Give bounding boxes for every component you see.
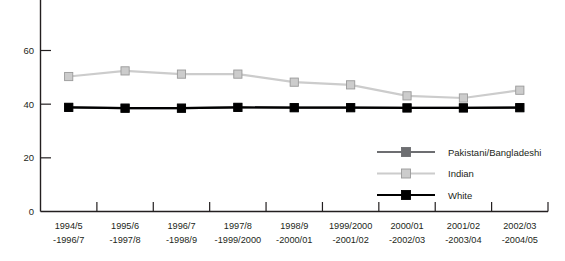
legend-item-2: White — [377, 190, 472, 201]
legend-label: Indian — [448, 168, 474, 179]
x-tick-label-4-line1: -2000/01 — [276, 235, 312, 245]
legend-marker — [402, 148, 411, 157]
y-tick-marks — [41, 51, 52, 158]
x-tick-label-1-line0: 1995/6 — [111, 221, 139, 231]
x-tick-label-5-line0: 1999/2000 — [329, 221, 372, 231]
x-tick-label-6-line0: 2000/01 — [390, 221, 423, 231]
x-tick-label-3-line0: 1997/8 — [224, 221, 252, 231]
data-point — [234, 103, 242, 111]
data-point — [403, 92, 411, 100]
legend-label: White — [448, 190, 472, 201]
series-2 — [65, 103, 524, 112]
data-point — [65, 103, 73, 111]
chart-canvas: 0204060 1994/5-1996/71995/6-1997/81996/7… — [0, 0, 565, 261]
legend-marker — [402, 169, 411, 178]
legend-marker — [402, 191, 411, 200]
data-point — [403, 104, 411, 112]
x-tick-label-0-line1: -1996/7 — [53, 235, 84, 245]
data-point — [65, 72, 73, 80]
x-tick-label-7-line0: 2001/02 — [447, 221, 480, 231]
y-tick-label-40: 40 — [23, 99, 34, 110]
x-tick-label-7-line1: -2003/04 — [445, 235, 481, 245]
x-tick-label-8-line1: -2004/05 — [502, 235, 538, 245]
line-chart: 0204060 1994/5-1996/71995/6-1997/81996/7… — [0, 0, 565, 261]
data-point — [177, 104, 185, 112]
x-tick-label-6-line1: -2002/03 — [389, 235, 425, 245]
legend-label: Pakistani/Bangladeshi — [448, 147, 541, 158]
x-tick-label-5-line1: -2001/02 — [332, 235, 368, 245]
legend-item-1: Indian — [377, 168, 474, 179]
y-tick-label-20: 20 — [23, 152, 34, 163]
x-tick-label-3-line1: -1999/2000 — [215, 235, 262, 245]
data-point — [121, 104, 129, 112]
x-tick-label-2-line1: -1998/9 — [166, 235, 197, 245]
data-point — [516, 86, 524, 94]
x-tick-label-8-line0: 2002/03 — [503, 221, 536, 231]
data-point — [459, 94, 467, 102]
x-tick-label-1-line1: -1997/8 — [109, 235, 140, 245]
x-tick-marks — [97, 202, 548, 212]
legend-item-0: Pakistani/Bangladeshi — [377, 147, 541, 158]
data-point — [177, 70, 185, 78]
data-point — [234, 70, 242, 78]
y-tick-label-60: 60 — [23, 45, 34, 56]
x-tick-labels: 1994/5-1996/71995/6-1997/81996/7-1998/91… — [53, 221, 538, 245]
x-tick-label-4-line0: 1998/9 — [280, 221, 308, 231]
data-point — [121, 67, 129, 75]
series-1 — [65, 67, 524, 102]
data-point — [516, 104, 524, 112]
data-point — [290, 104, 298, 112]
x-tick-label-0-line0: 1994/5 — [55, 221, 83, 231]
data-point — [347, 81, 355, 89]
y-tick-label-0: 0 — [29, 206, 34, 217]
data-point — [347, 104, 355, 112]
chart-legend: Pakistani/BangladeshiIndianWhite — [377, 147, 541, 201]
data-point — [290, 78, 298, 86]
data-point — [459, 104, 467, 112]
y-tick-labels: 0204060 — [23, 45, 34, 217]
x-tick-label-2-line0: 1996/7 — [167, 221, 195, 231]
series-group — [65, 67, 524, 112]
